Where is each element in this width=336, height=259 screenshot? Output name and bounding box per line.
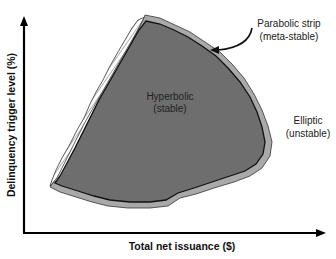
parabolic-label: Parabolic strip bbox=[257, 18, 321, 29]
stability-region-diagram: Total net issuance ($) Delinquency trigg… bbox=[0, 0, 336, 259]
y-axis-arrowhead-icon bbox=[20, 16, 28, 26]
elliptic-sublabel: (unstable) bbox=[286, 128, 330, 139]
elliptic-label: Elliptic bbox=[294, 115, 323, 126]
callout-arrow bbox=[218, 28, 252, 50]
x-axis-title: Total net issuance ($) bbox=[129, 240, 236, 252]
y-axis-title: Delinquency trigger level (%) bbox=[5, 53, 17, 197]
hyperbolic-label: Hyperbolic bbox=[146, 91, 193, 102]
x-axis-arrowhead-icon bbox=[316, 229, 326, 237]
hyperbolic-sublabel: (stable) bbox=[153, 103, 186, 114]
parabolic-sublabel: (meta-stable) bbox=[260, 31, 319, 42]
